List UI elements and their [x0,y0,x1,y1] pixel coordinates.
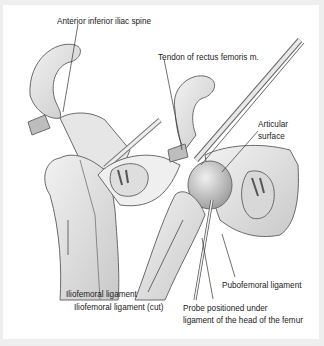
label-anterior-inferior-iliac-spine: Anterior inferior iliac spine [57,15,151,27]
label-iliofemoral-ligament: Iliofemoral ligament [66,288,137,300]
label-iliofemoral-ligament-cut: Iliofemoral ligament (cut) [74,301,163,313]
label-articular-surface-line1: Articular [258,118,288,130]
label-probe-line1: Probe positioned under [183,302,267,314]
label-pubofemoral-ligament: Pubofemoral ligament [222,279,301,291]
label-articular-surface-line2: surface [258,130,285,142]
label-probe-line2: ligament of the head of the femur [183,314,303,326]
label-tendon-rectus-femoris: Tendon of rectus femoris m. [158,51,259,63]
